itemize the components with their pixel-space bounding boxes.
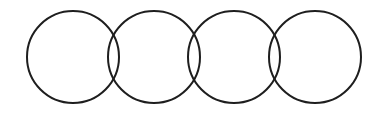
- four-overlapping-circles-diagram: [0, 0, 382, 117]
